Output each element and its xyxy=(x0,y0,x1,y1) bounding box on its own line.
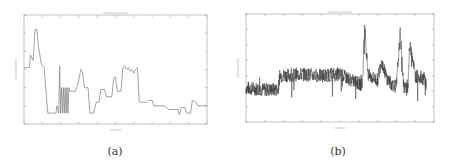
figure-panel-b xyxy=(227,0,454,140)
plot-frame xyxy=(246,14,434,122)
caption-b: (b) xyxy=(318,145,358,158)
line-chart-a xyxy=(0,0,227,140)
figure-panel-a xyxy=(0,0,227,140)
plot-frame xyxy=(24,15,207,124)
caption-a: (a) xyxy=(95,145,135,158)
series-line xyxy=(24,30,207,115)
series-line xyxy=(246,25,426,101)
line-chart-b xyxy=(227,0,454,140)
